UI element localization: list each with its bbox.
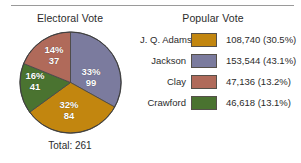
pie-label-jq-adams: 32% 84	[50, 100, 88, 121]
legend-value-crawford: 46,618 (13.1%)	[217, 97, 291, 108]
legend-label-clay: Clay	[140, 76, 191, 87]
legend-value-jackson: 153,544 (43.1%)	[217, 55, 296, 66]
legend-row-crawford: Crawford 46,618 (13.1%)	[140, 92, 301, 113]
popular-vote-title: Popular Vote	[140, 12, 286, 24]
electoral-pie-chart: 33% 99 32% 84 16% 41 14% 37	[19, 31, 122, 134]
popular-vote-rows: J. Q. Adams 108,740 (30.5%) Jackson 153,…	[140, 29, 301, 113]
legend-row-clay: Clay 47,136 (13.2%)	[140, 71, 301, 92]
legend-swatch-clay	[191, 75, 217, 89]
pie-label-clay: 14% 37	[36, 45, 72, 66]
legend-swatch-crawford	[191, 96, 217, 110]
legend-row-jq-adams: J. Q. Adams 108,740 (30.5%)	[140, 29, 301, 50]
popular-vote-legend: Popular Vote J. Q. Adams 108,740 (30.5%)…	[140, 0, 301, 163]
legend-row-jackson: Jackson 153,544 (43.1%)	[140, 50, 301, 71]
legend-swatch-jackson	[191, 54, 217, 68]
electoral-total-label: Total: 261	[0, 140, 140, 151]
legend-label-jq-adams: J. Q. Adams	[140, 34, 191, 45]
legend-swatch-jq-adams	[191, 33, 217, 47]
legend-label-jackson: Jackson	[140, 55, 191, 66]
legend-label-crawford: Crawford	[140, 97, 191, 108]
electoral-vote-title: Electoral Vote	[0, 12, 140, 24]
pie-label-jackson: 33% 99	[72, 67, 110, 88]
electoral-vote-chart: Electoral Vote 33% 99 32% 84 16% 41	[0, 0, 140, 163]
pie-label-crawford: 16% 41	[18, 71, 52, 92]
legend-value-jq-adams: 108,740 (30.5%)	[217, 34, 296, 45]
legend-value-clay: 47,136 (13.2%)	[217, 76, 291, 87]
